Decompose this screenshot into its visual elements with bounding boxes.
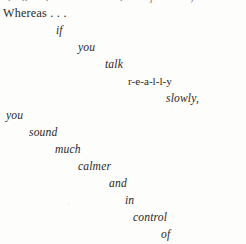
paper-speck	[171, 108, 172, 109]
poem-word-sound: sound	[29, 127, 57, 139]
paper-speck	[68, 203, 70, 204]
poem-word-much: much	[55, 144, 81, 156]
poem-opening: Whereas . . .	[3, 8, 67, 20]
poem-word-you-1: you	[78, 42, 95, 54]
poem-word-of: of	[161, 229, 170, 241]
paper-speck	[213, 152, 214, 153]
poem-word-you-2: you	[6, 110, 23, 122]
poem-word-slowly: slowly,	[166, 93, 199, 105]
poem-word-control: control	[133, 212, 167, 224]
poem-word-talk: talk	[105, 59, 123, 71]
poem-word-if: if	[56, 25, 63, 37]
page-canvas: . .. . . j y Whereas . . . if you talk r…	[0, 0, 246, 244]
poem-word-in: in	[125, 195, 134, 207]
poem-word-and: and	[109, 178, 127, 190]
poem-word-calmer: calmer	[78, 161, 111, 173]
poem-word-really: r-e-a-l-l-y	[128, 76, 172, 88]
cascading-poem: Whereas . . . if you talk r-e-a-l-l-y sl…	[0, 0, 246, 244]
